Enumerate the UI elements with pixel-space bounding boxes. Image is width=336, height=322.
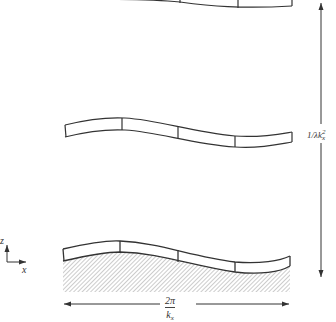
wavelength-denominator: kx [165, 308, 175, 322]
z-axis-label: z [0, 236, 4, 246]
hatched-substrate [63, 252, 290, 292]
wavelength-numerator: 2π [165, 295, 175, 308]
middle-strip [65, 118, 292, 148]
height-label: 1/λkx2 [307, 128, 326, 143]
axes-indicator [7, 245, 26, 262]
height-label-superscript: 2 [322, 128, 326, 136]
x-axis-label: x [22, 265, 26, 275]
height-label-prefix: 1/λk [307, 130, 322, 140]
wavelength-label: 2π kx [162, 295, 178, 322]
denominator-subscript: x [171, 314, 174, 322]
top-strip [68, 0, 292, 8]
